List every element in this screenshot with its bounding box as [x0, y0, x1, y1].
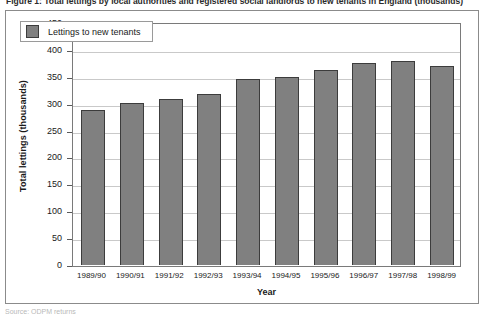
x-tick-label: 1989/90: [72, 271, 111, 280]
bar-slot: [229, 23, 268, 265]
bar-slot: [422, 23, 461, 265]
bar-chart: Total lettings (thousands) 0501001502002…: [6, 11, 480, 305]
bar[interactable]: [236, 79, 260, 265]
bar[interactable]: [430, 66, 454, 266]
chart-page: Figure 1: Total lettings by local author…: [0, 0, 484, 315]
y-tick-mark: [67, 212, 72, 213]
x-tick-label: 1997/98: [383, 271, 422, 280]
y-tick-label: 100: [28, 207, 62, 216]
x-tick-label: 1998/99: [422, 271, 461, 280]
y-tick-mark: [67, 132, 72, 133]
y-tick-label: 300: [28, 100, 62, 109]
x-axis-title: Year: [72, 287, 461, 297]
x-tick-label: 1991/92: [150, 271, 189, 280]
bar[interactable]: [352, 63, 376, 265]
y-tick-mark: [67, 51, 72, 52]
bar[interactable]: [314, 70, 338, 265]
bar-slot: [151, 23, 190, 265]
y-tick-mark: [67, 158, 72, 159]
y-axis-title: Total lettings (thousands): [18, 51, 28, 221]
figure-frame: Total lettings (thousands) 0501001502002…: [5, 10, 479, 304]
bar-slot: [345, 23, 384, 265]
y-tick-label: 200: [28, 153, 62, 162]
plot-area: [72, 23, 461, 267]
y-tick-label: 350: [28, 73, 62, 82]
bar-slot: [113, 23, 152, 265]
x-tick-label: 1992/93: [189, 271, 228, 280]
bar-slot: [74, 23, 113, 265]
bar-slot: [190, 23, 229, 265]
y-tick-mark: [67, 78, 72, 79]
bar-slot: [268, 23, 307, 265]
y-tick-mark: [67, 185, 72, 186]
y-tick-label: 0: [28, 261, 62, 270]
bar[interactable]: [391, 61, 415, 265]
y-tick-label: 50: [28, 234, 62, 243]
legend-item-label: Lettings to new tenants: [48, 27, 141, 37]
legend-swatch-icon: [26, 25, 39, 38]
x-tick-label: 1990/91: [111, 271, 150, 280]
figure-caption: Figure 1: Total lettings by local author…: [6, 0, 476, 6]
y-tick-mark: [67, 239, 72, 240]
bar-series: [74, 23, 461, 265]
bar[interactable]: [159, 99, 183, 265]
bar[interactable]: [81, 110, 105, 265]
x-tick-label: 1993/94: [228, 271, 267, 280]
y-tick-label: 150: [28, 180, 62, 189]
y-tick-label: 400: [28, 46, 62, 55]
source-note: Source: ODPM returns: [5, 307, 305, 315]
bar[interactable]: [197, 94, 221, 265]
y-tick-mark: [67, 105, 72, 106]
chart-legend: Lettings to new tenants: [20, 21, 153, 42]
bar[interactable]: [275, 77, 299, 265]
x-tick-label: 1995/96: [305, 271, 344, 280]
bar-slot: [306, 23, 345, 265]
x-tick-label: 1994/95: [267, 271, 306, 280]
y-tick-label: 250: [28, 127, 62, 136]
bar-slot: [384, 23, 423, 265]
x-axis-labels: 1989/901990/911991/921992/931993/941994/…: [72, 271, 461, 280]
x-tick-label: 1996/97: [344, 271, 383, 280]
bar[interactable]: [120, 103, 144, 265]
y-tick-mark: [67, 266, 72, 267]
